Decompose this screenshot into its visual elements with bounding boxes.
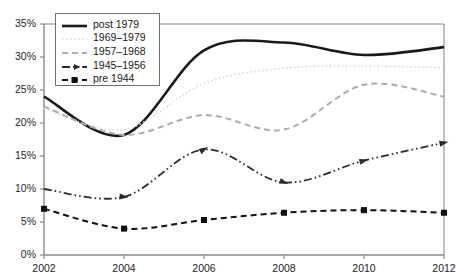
legend-item[interactable]: 1969–1979 xyxy=(56,31,159,45)
series-line xyxy=(44,84,444,135)
series-line xyxy=(44,143,444,199)
data-point-marker xyxy=(281,210,287,216)
legend-item[interactable]: pre 1944 xyxy=(56,71,159,85)
chart-legend: post 19791969–19791957–19681945–1956pre … xyxy=(55,13,160,86)
legend-item-label: 1957–1968 xyxy=(93,45,146,57)
legend-item-label: post 1979 xyxy=(93,18,139,30)
data-point-marker xyxy=(41,206,47,212)
legend-item[interactable]: 1945–1956 xyxy=(56,58,159,72)
data-point-marker xyxy=(201,217,207,223)
legend-swatch-icon xyxy=(61,31,88,43)
data-point-marker xyxy=(121,226,127,232)
legend-swatch-icon xyxy=(61,18,88,30)
legend-item-label: 1969–1979 xyxy=(93,31,146,43)
data-point-marker xyxy=(361,207,367,213)
data-point-marker xyxy=(119,193,129,200)
data-point-marker xyxy=(441,210,447,216)
series-pre-1944 xyxy=(41,206,447,232)
series-1945-1956 xyxy=(44,139,449,200)
series-line xyxy=(44,209,444,229)
legend-swatch-icon xyxy=(61,72,88,84)
legend-item[interactable]: post 1979 xyxy=(56,17,159,31)
legend-item-label: pre 1944 xyxy=(93,72,134,84)
legend-swatch-icon xyxy=(61,59,88,71)
series-1957-1968 xyxy=(44,84,444,135)
legend-swatch-icon xyxy=(61,45,88,57)
legend-item-label: 1945–1956 xyxy=(93,59,146,71)
line-chart: 0%5%10%15%20%25%30%35% 20022004200620082… xyxy=(0,0,456,280)
legend-item[interactable]: 1957–1968 xyxy=(56,44,159,58)
